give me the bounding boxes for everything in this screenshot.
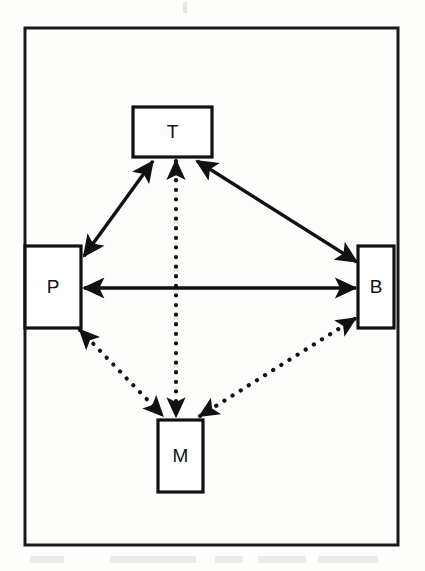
node-p[interactable]: P — [25, 246, 81, 328]
node-m[interactable]: M — [158, 420, 203, 492]
node-b-label: B — [370, 276, 383, 297]
edge-p-m — [80, 330, 163, 416]
edge-t-b — [197, 161, 357, 262]
edges-layer — [80, 161, 357, 417]
diagram-canvas: TPBM — [0, 0, 425, 571]
node-m-label: M — [173, 445, 189, 466]
edge-m-b — [200, 318, 356, 416]
nodes-layer: TPBM — [25, 107, 394, 492]
node-p-label: P — [47, 276, 60, 297]
node-t[interactable]: T — [133, 107, 212, 157]
diagram-container: TPBM — [0, 0, 425, 571]
node-b[interactable]: B — [358, 246, 394, 328]
node-t-label: T — [167, 121, 179, 142]
edge-p-t — [84, 161, 153, 256]
